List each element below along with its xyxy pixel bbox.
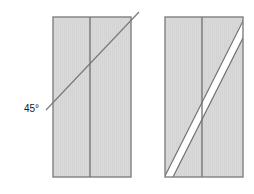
left-panel-fill [53,17,131,177]
diagram-svg: 45° [0,0,254,194]
diagram-canvas: 45° [0,0,254,194]
figure-before: 45° [24,12,139,177]
angle-label: 45° [24,103,39,114]
figure-after [162,17,251,187]
